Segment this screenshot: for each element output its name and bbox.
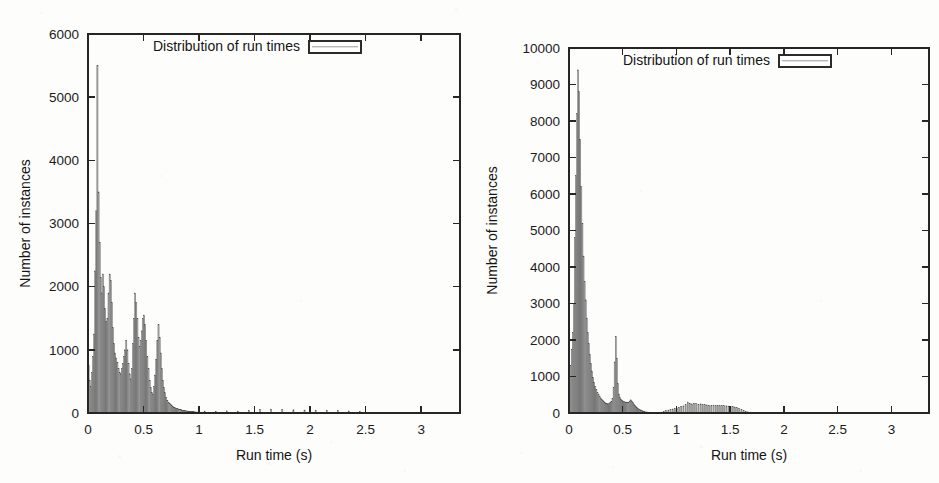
y-tick-label: 4000	[49, 153, 79, 168]
histogram-bar	[726, 406, 727, 413]
x-tick-label: 1	[195, 422, 203, 437]
legend: Distribution of run times	[153, 38, 361, 54]
legend-label: Distribution of run times	[623, 52, 770, 68]
y-tick-label: 2000	[49, 279, 79, 294]
histogram-bar	[719, 406, 720, 413]
y-tick-label: 3000	[530, 296, 560, 311]
histogram-bar	[679, 407, 680, 413]
y-tick-label: 3000	[49, 216, 79, 231]
histogram-bar	[724, 406, 725, 413]
histogram-bar	[689, 403, 690, 413]
histogram-bar	[722, 406, 723, 413]
histogram-right: 0100020003000400050006000700080009000100…	[470, 0, 939, 483]
x-tick-label: 3	[417, 422, 425, 437]
y-tick-label: 0	[552, 406, 560, 421]
x-tick-label: 0.5	[134, 422, 153, 437]
y-tick-label: 10000	[522, 41, 560, 56]
y-axis-title: Number of instances	[484, 166, 500, 294]
histogram-bar	[681, 407, 682, 413]
chart-panel-left: 010002000300040005000600000.511.522.53Ru…	[0, 0, 470, 483]
x-tick-label: 2.5	[356, 422, 375, 437]
x-axis-title: Run time (s)	[236, 447, 312, 463]
y-tick-label: 1000	[49, 343, 79, 358]
legend-label: Distribution of run times	[153, 38, 300, 54]
histogram-bar	[685, 405, 686, 413]
x-axis-title: Run time (s)	[711, 447, 787, 463]
y-tick-label: 0	[71, 406, 79, 421]
histogram-bar	[732, 407, 733, 413]
y-tick-label: 1000	[530, 369, 560, 384]
histogram-bar	[709, 405, 710, 413]
histogram-bar	[694, 403, 695, 413]
histogram-bars	[88, 66, 449, 414]
histogram-bar	[715, 405, 716, 413]
y-tick-label: 8000	[530, 114, 560, 129]
histogram-bars	[569, 70, 919, 414]
x-tick-label: 2	[306, 422, 314, 437]
histogram-bar	[692, 404, 693, 413]
histogram-bar	[711, 405, 712, 413]
y-tick-label: 6000	[530, 187, 560, 202]
y-tick-label: 4000	[530, 260, 560, 275]
histogram-bar	[700, 404, 701, 413]
histogram-bar	[734, 407, 735, 413]
histogram-bar	[713, 406, 714, 413]
x-tick-label: 1.5	[721, 422, 740, 437]
histogram-bar	[687, 402, 688, 413]
histogram-bar	[702, 405, 703, 413]
x-tick-label: 1.5	[245, 422, 264, 437]
histogram-left: 010002000300040005000600000.511.522.53Ru…	[0, 0, 470, 483]
histogram-bar	[100, 277, 101, 413]
y-axis-title: Number of instances	[17, 159, 33, 287]
y-tick-label: 9000	[530, 77, 560, 92]
plot-frame	[569, 48, 929, 413]
histogram-bar	[149, 380, 150, 413]
x-tick-label: 3	[888, 422, 896, 437]
chart-panel-right: 0100020003000400050006000700080009000100…	[470, 0, 939, 483]
y-tick-label: 2000	[530, 333, 560, 348]
histogram-bar	[728, 406, 729, 413]
histogram-bar	[125, 350, 126, 413]
x-tick-label: 2	[780, 422, 788, 437]
x-tick-label: 1	[673, 422, 681, 437]
histogram-bar	[698, 404, 699, 413]
y-tick-label: 5000	[530, 223, 560, 238]
histogram-bar	[717, 405, 718, 413]
histogram-bar	[707, 405, 708, 413]
y-tick-label: 7000	[530, 150, 560, 165]
x-tick-label: 0	[84, 422, 92, 437]
histogram-bar	[704, 405, 705, 413]
histogram-bar	[696, 404, 697, 413]
x-tick-label: 2.5	[828, 422, 847, 437]
y-tick-label: 6000	[49, 27, 79, 42]
x-tick-label: 0	[565, 422, 573, 437]
histogram-bar	[683, 406, 684, 413]
x-tick-label: 0.5	[613, 422, 632, 437]
figure-two-histograms: 010002000300040005000600000.511.522.53Ru…	[0, 0, 939, 483]
legend: Distribution of run times	[623, 52, 831, 68]
y-tick-label: 5000	[49, 90, 79, 105]
